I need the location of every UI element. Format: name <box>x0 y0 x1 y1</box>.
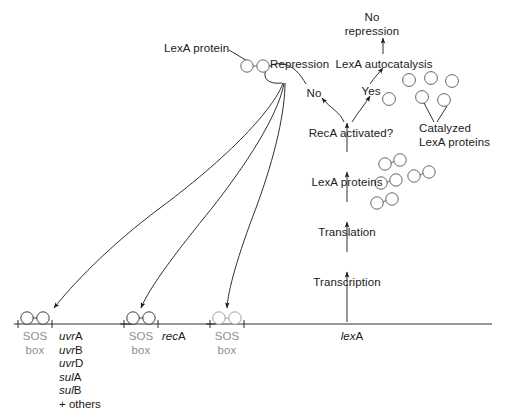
gene-prefix: uvr <box>59 357 75 369</box>
repression-arrow-to-lexa <box>227 83 285 308</box>
label-no-repression: No repression <box>345 11 400 38</box>
gene-suffix: B <box>75 344 83 356</box>
gene-suffix: D <box>75 357 83 369</box>
label-reca-activated: RecA activated? <box>309 127 394 140</box>
label-catalyzed-line2: LexA proteins <box>419 136 490 150</box>
gene-item: + others <box>59 398 101 412</box>
gene-list-reca-operon: recA <box>162 330 186 344</box>
gene-item: lexA <box>341 330 363 344</box>
catalyzed-monomer-3 <box>446 75 459 88</box>
repression-arrow-to-uvr <box>54 83 283 308</box>
sos-box-line1: SOS <box>215 330 240 344</box>
gene-suffix: B <box>74 384 82 396</box>
sos-box-caption-lexa: SOS box <box>215 330 240 357</box>
gene-prefix: uvr <box>59 330 75 342</box>
sos-box-line1: SOS <box>23 330 48 344</box>
label-lexa-autocatalysis: LexA autocatalysis <box>335 58 432 71</box>
gene-list-lexa-operon: lexA <box>341 330 363 344</box>
gene-item: sulA <box>59 371 101 385</box>
sos-box-line2: box <box>129 344 154 358</box>
label-lexa-protein: LexA protein <box>164 42 229 55</box>
repression-arrow-to-reca <box>141 83 284 308</box>
gene-list-uvr-operon: uvrA uvrB uvrD sulA sulB + others <box>59 330 101 411</box>
gene-prefix: uvr <box>59 344 75 356</box>
label-translation: Translation <box>318 226 376 239</box>
label-lexa-proteins: LexA proteins <box>312 176 383 189</box>
gene-prefix: sul <box>59 384 74 396</box>
gene-suffix: A <box>75 330 83 342</box>
sos-box-dimer-uvr <box>21 312 49 324</box>
sos-box-caption-uvr: SOS box <box>23 330 48 357</box>
gene-item: uvrB <box>59 344 101 358</box>
catalyzed-monomer-6 <box>438 94 451 107</box>
gene-item: uvrA <box>59 330 101 344</box>
gene-item: recA <box>162 330 186 344</box>
gene-suffix: + others <box>59 398 101 410</box>
gene-prefix: sul <box>59 371 74 383</box>
label-transcription: Transcription <box>313 276 380 289</box>
catalyzed-lexa-monomer-cluster <box>383 72 459 107</box>
gene-suffix: A <box>74 371 82 383</box>
sos-box-dimer-lexa <box>213 312 241 324</box>
label-yes: Yes <box>361 85 380 98</box>
arrow-branch-no <box>322 98 344 122</box>
arrow-branch-yes <box>352 96 370 122</box>
label-catalyzed-lexa-proteins: Catalyzed LexA proteins <box>419 122 490 149</box>
lexa-dimer-1 <box>379 154 406 170</box>
gene-prefix: lex <box>341 330 356 342</box>
sos-box-dimer-reca <box>127 312 155 324</box>
gene-item: uvrD <box>59 357 101 371</box>
lexa-dimer-4 <box>371 193 398 209</box>
dna-line-lexa <box>206 302 492 328</box>
lexa-dimer-2 <box>408 166 435 182</box>
gene-item: sulB <box>59 384 101 398</box>
label-repression: Repression <box>270 58 329 71</box>
label-no-repression-line1: No <box>345 11 400 25</box>
sos-box-caption-reca: SOS box <box>129 330 154 357</box>
sos-box-line2: box <box>215 344 240 358</box>
gene-suffix: A <box>178 330 186 342</box>
label-no: No <box>307 87 322 100</box>
sos-box-line2: box <box>23 344 48 358</box>
catalyzed-monomer-5 <box>416 91 429 104</box>
catalyzed-monomer-4 <box>383 93 396 106</box>
sos-box-line1: SOS <box>129 330 154 344</box>
gene-suffix: A <box>356 330 364 342</box>
label-no-repression-line2: repression <box>345 25 400 39</box>
label-catalyzed-line1: Catalyzed <box>419 122 490 136</box>
lexa-repressor-dimer <box>241 60 269 72</box>
diagram-canvas: LexA protein Repression No Yes RecA acti… <box>0 0 505 420</box>
catalyzed-monomer-2 <box>425 72 438 85</box>
catalyzed-monomer-1 <box>403 74 416 87</box>
gene-prefix: rec <box>162 330 178 342</box>
